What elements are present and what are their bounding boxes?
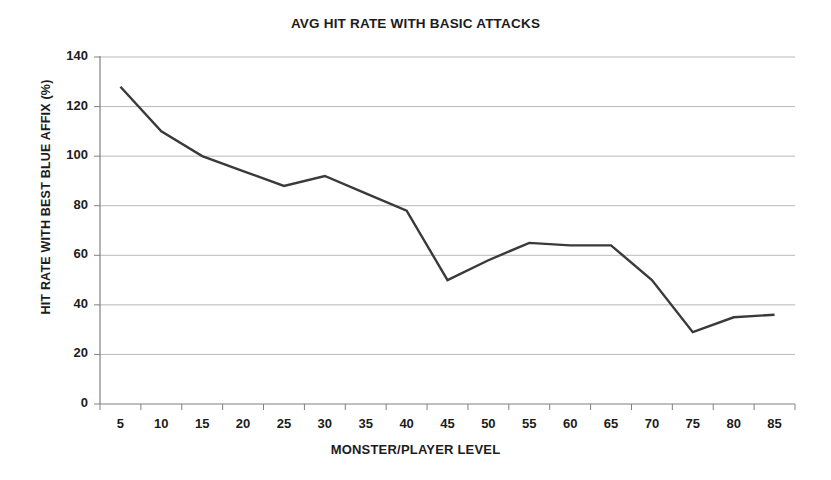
y-tick-label: 100	[46, 147, 88, 162]
plot-area	[0, 0, 831, 480]
x-tick-label: 50	[468, 416, 508, 431]
y-tick-label: 60	[46, 246, 88, 261]
x-tick-label: 75	[673, 416, 713, 431]
x-tick-label: 85	[755, 416, 795, 431]
y-tick-label: 140	[46, 48, 88, 63]
y-tick-label: 20	[46, 345, 88, 360]
x-tick-label: 15	[182, 416, 222, 431]
y-tick-label: 120	[46, 98, 88, 113]
y-tick-label: 80	[46, 197, 88, 212]
x-tick-label: 60	[550, 416, 590, 431]
y-tick-marks	[94, 57, 100, 404]
x-tick-label: 10	[141, 416, 181, 431]
x-tick-label: 30	[305, 416, 345, 431]
x-tick-label: 25	[264, 416, 304, 431]
x-tick-label: 70	[632, 416, 672, 431]
x-tick-label: 20	[223, 416, 263, 431]
x-tick-marks	[100, 404, 795, 410]
x-tick-label: 35	[346, 416, 386, 431]
series-line-1	[120, 87, 774, 332]
y-tick-label: 40	[46, 296, 88, 311]
x-tick-label: 40	[387, 416, 427, 431]
x-tick-label: 45	[428, 416, 468, 431]
chart-container: AVG HIT RATE WITH BASIC ATTACKS HIT RATE…	[0, 0, 831, 480]
y-tick-label: 0	[46, 395, 88, 410]
x-tick-label: 55	[509, 416, 549, 431]
data-series	[120, 87, 774, 332]
x-tick-label: 80	[714, 416, 754, 431]
x-tick-label: 5	[100, 416, 140, 431]
x-tick-label: 65	[591, 416, 631, 431]
gridlines	[100, 57, 795, 354]
